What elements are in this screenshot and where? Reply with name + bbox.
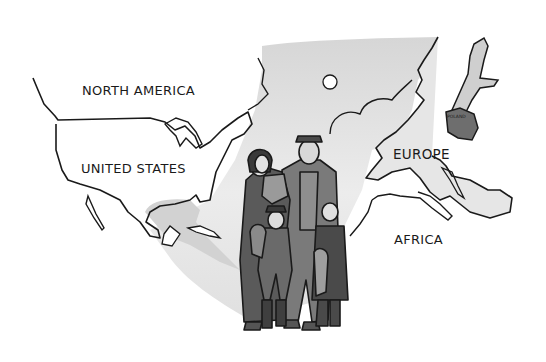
map-drawing [0,0,546,362]
label-poland: POLAND [447,114,466,119]
label-united-states: UNITED STATES [81,161,186,176]
scandinavia [452,38,498,112]
label-africa: AFRICA [394,232,443,247]
great-lakes [165,118,202,148]
map-illustration: NORTH AMERICA UNITED STATES EUROPE AFRIC… [0,0,546,362]
sun-icon [323,75,337,89]
poland-region [446,108,478,140]
label-north-america: NORTH AMERICA [82,83,195,98]
baja-california [86,196,104,230]
label-europe: EUROPE [393,146,450,162]
